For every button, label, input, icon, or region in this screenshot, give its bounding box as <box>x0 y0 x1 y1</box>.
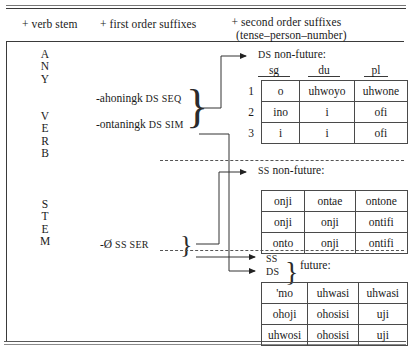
cell: uji <box>358 325 407 346</box>
paradigm-label-ds-nonfuture: DS non-future: <box>258 48 326 60</box>
table-row: onto onji ontifi <box>262 233 408 254</box>
cell: uhwasi <box>308 283 358 304</box>
cell: onto <box>262 233 305 254</box>
paradigm-table-ds-nonfuture: o uhwoyo uhwone ino i ofi i i ofi <box>261 80 408 144</box>
paradigm-label-sc: DS <box>258 49 271 60</box>
paradigm-label-sc: SS <box>258 165 270 176</box>
cell: onji <box>262 212 305 233</box>
cell: ontifi <box>355 212 407 233</box>
grammar-paradigm-figure: + verb stem + first order suffixes + sec… <box>0 0 408 352</box>
cell: ohosisi <box>308 304 358 325</box>
table-row: ohoji ohosisi uji <box>262 304 408 325</box>
paradigm-table-future: 'mo uhwasi uhwasi ohoji ohosisi uji uhwo… <box>261 282 408 346</box>
cell: uji <box>358 304 407 325</box>
paradigm-table-ss-nonfuture: onji ontae ontone onji onji ontifi onto … <box>261 190 408 254</box>
cell: i <box>262 123 300 144</box>
future-branch-label-ss: SS <box>266 253 278 264</box>
paradigm-label-rest: non-future: <box>270 164 325 176</box>
col-header-pl: pl <box>364 64 388 77</box>
col-header-du: du <box>308 64 340 77</box>
table-row: o uhwoyo uhwone <box>262 81 408 102</box>
cell: uhwone <box>354 81 407 102</box>
col-header-sg: sg <box>258 64 290 77</box>
cell: ohoji <box>262 304 308 325</box>
table-row: onji onji ontifi <box>262 212 408 233</box>
row-number-2: 2 <box>246 106 256 118</box>
cell: onji <box>305 212 356 233</box>
cell: onji <box>262 191 305 212</box>
cell: ontae <box>305 191 356 212</box>
cell: onji <box>305 233 356 254</box>
table-row: ino i ofi <box>262 102 408 123</box>
table-row: i i ofi <box>262 123 408 144</box>
row-number-3: 3 <box>246 127 256 139</box>
cell: ino <box>262 102 300 123</box>
cell: uhwosi <box>262 325 308 346</box>
cell: ofi <box>354 123 407 144</box>
cell: o <box>262 81 300 102</box>
paradigm-label-future: future: <box>300 259 331 271</box>
table-row: 'mo uhwasi uhwasi <box>262 283 408 304</box>
row-number-1: 1 <box>246 85 256 97</box>
future-branch-label-ds: DS <box>266 266 279 277</box>
cell: ontone <box>355 191 407 212</box>
cell: ofi <box>354 102 407 123</box>
cell: ohosisi <box>308 325 358 346</box>
cell: i <box>300 123 355 144</box>
cell: uhwasi <box>358 283 407 304</box>
cell: i <box>300 102 355 123</box>
cell: uhwoyo <box>300 81 355 102</box>
table-row: onji ontae ontone <box>262 191 408 212</box>
cell: ontifi <box>355 233 407 254</box>
divider-dashed-upper <box>160 160 404 161</box>
paradigm-label-ss-nonfuture: SS non-future: <box>258 164 324 176</box>
cell: 'mo <box>262 283 308 304</box>
table-row: uhwosi ohosisi uji <box>262 325 408 346</box>
paradigm-label-rest: non-future: <box>271 48 326 60</box>
